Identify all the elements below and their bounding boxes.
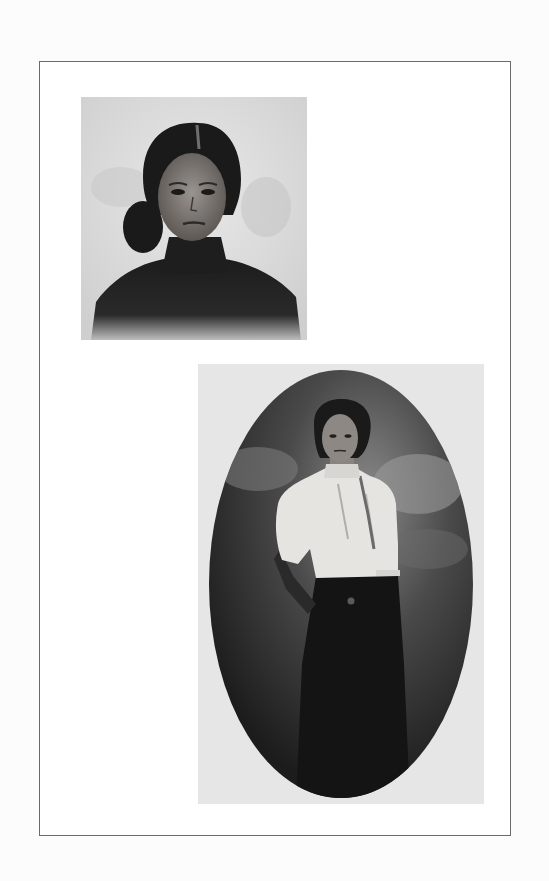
portrait-photo-top — [81, 97, 307, 340]
portrait-top-illustration — [81, 97, 307, 340]
portrait-photo-bottom — [198, 364, 484, 804]
portrait-bottom-illustration — [198, 364, 484, 804]
